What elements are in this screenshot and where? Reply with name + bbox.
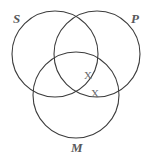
circle-s xyxy=(12,11,98,97)
x-mark-inner-intersection: X xyxy=(84,70,92,81)
circle-p xyxy=(54,11,140,97)
set-label-m: M xyxy=(71,141,83,154)
venn-diagram-canvas xyxy=(0,0,151,158)
set-label-s: S xyxy=(13,12,20,25)
x-mark-lower-intersection: X xyxy=(91,88,99,99)
venn-diagram-figure: S P M X X xyxy=(0,0,151,158)
circle-m xyxy=(33,52,119,138)
set-label-p: P xyxy=(131,12,139,25)
